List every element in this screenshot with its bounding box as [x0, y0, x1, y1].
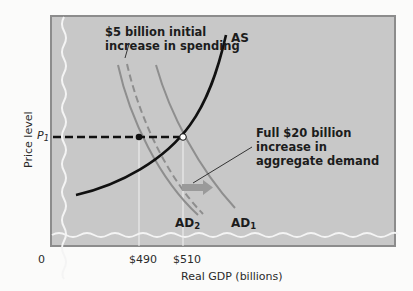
ad1-label: AD1 [231, 216, 256, 231]
x-tick-510: $510 [173, 253, 201, 266]
annotation-initial-spending: $5 billion initial increase in spending [105, 25, 240, 53]
ad1-label-sub: 1 [250, 221, 256, 231]
annotation-initial-line1: $5 billion initial [105, 25, 240, 39]
y-axis-label: Price level [22, 112, 35, 169]
annotation-initial-line2: increase in spending [105, 39, 240, 53]
as-label: AS [231, 31, 249, 45]
annotation-full-line1: Full $20 billion [256, 126, 379, 140]
x-tick-zero: 0 [38, 253, 45, 266]
ad1-label-main: AD [231, 216, 250, 230]
ad2-label: AD2 [175, 216, 200, 231]
annotation-full-increase: Full $20 billion increase in aggregate d… [256, 126, 379, 168]
ad2-label-main: AD [175, 216, 194, 230]
y-tick-p1: P1 [37, 129, 49, 143]
annotation-full-line3: aggregate demand [256, 154, 379, 168]
y-tick-p1-sub: 1 [44, 133, 49, 143]
ad2-label-sub: 2 [194, 221, 200, 231]
new-equilibrium-circle [180, 134, 187, 141]
y-tick-p1-main: P [37, 129, 44, 142]
x-axis-label: Real GDP (billions) [181, 270, 283, 283]
x-tick-490: $490 [129, 253, 157, 266]
annotation-full-line2: increase in [256, 140, 379, 154]
initial-equilibrium-dot [136, 134, 143, 141]
